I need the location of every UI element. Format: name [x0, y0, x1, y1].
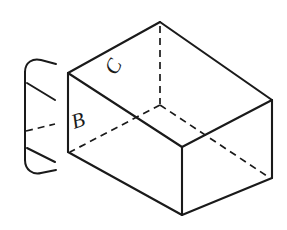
labels-group: B C: [68, 54, 127, 134]
break-symbol-bottom-curl: [25, 160, 56, 173]
edge-rim-front-right: [182, 100, 272, 147]
break-symbol-hidden-edge: [26, 124, 55, 131]
drawing-canvas: B C: [0, 0, 287, 230]
box-hidden-edges-group: [70, 26, 270, 178]
hidden-edge-floor-rear-right: [160, 105, 270, 178]
box-visible-edges-group: [68, 22, 272, 215]
break-symbol-top-curl: [25, 60, 56, 73]
break-symbol-upper-edge: [27, 83, 55, 100]
break-symbol-hidden-group: [26, 124, 55, 131]
edge-rim-front-left: [68, 73, 182, 147]
edge-base-front-right: [182, 178, 272, 215]
edge-base-front-left: [68, 152, 182, 215]
edge-rim-rear-right: [160, 22, 272, 100]
break-symbol-lower-edge: [27, 148, 55, 162]
face-label-c: C: [99, 54, 127, 79]
break-symbol-group: [25, 60, 56, 174]
face-label-b: B: [68, 107, 88, 134]
isometric-box-figure: B C: [0, 0, 287, 230]
